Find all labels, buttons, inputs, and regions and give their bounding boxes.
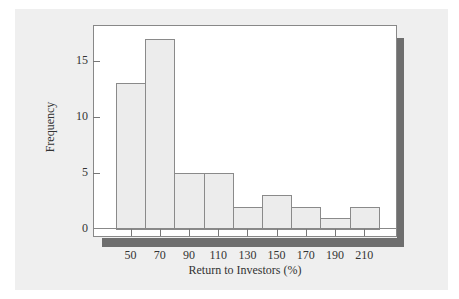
x-tick-label: 170 <box>291 248 321 263</box>
y-axis-title: Frequency <box>43 102 58 153</box>
x-tick <box>247 229 248 236</box>
x-tick-label: 50 <box>116 248 146 263</box>
histogram-bar <box>174 173 204 230</box>
histogram-bar <box>262 195 292 230</box>
plot-shadow-right <box>397 38 404 247</box>
x-axis-line <box>93 228 397 229</box>
x-tick <box>277 229 278 236</box>
x-tick-label: 90 <box>174 248 204 263</box>
histogram-bar <box>350 207 380 230</box>
x-tick-label: 210 <box>349 248 379 263</box>
plot-shadow-bottom <box>102 238 404 247</box>
x-tick-label: 110 <box>203 248 233 263</box>
y-tick <box>93 173 100 174</box>
x-tick <box>306 229 307 236</box>
x-axis-title: Return to Investors (%) <box>93 263 397 278</box>
y-tick <box>93 117 100 118</box>
y-tick-label: 10 <box>58 109 88 124</box>
histogram-bar <box>116 83 146 230</box>
x-tick <box>131 229 132 236</box>
x-tick <box>335 229 336 236</box>
y-tick-label: 15 <box>58 53 88 68</box>
y-tick-label: 0 <box>58 221 88 236</box>
y-tick <box>93 61 100 62</box>
histogram-bar <box>204 173 234 230</box>
x-tick <box>364 229 365 236</box>
x-tick-label: 190 <box>320 248 350 263</box>
x-tick-label: 70 <box>145 248 175 263</box>
x-tick-label: 130 <box>232 248 262 263</box>
y-tick-label: 5 <box>58 165 88 180</box>
x-tick-label: 150 <box>262 248 292 263</box>
histogram-bar <box>291 207 321 230</box>
x-tick <box>160 229 161 236</box>
x-tick <box>189 229 190 236</box>
histogram-bar <box>145 39 175 230</box>
histogram-bar <box>233 207 263 230</box>
x-tick <box>218 229 219 236</box>
